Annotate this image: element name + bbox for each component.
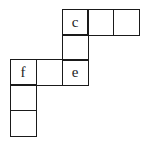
net-cell — [36, 59, 63, 86]
net-cell — [10, 84, 37, 111]
net-cell — [113, 9, 140, 36]
net-cell — [10, 110, 37, 137]
cell-label: f — [21, 65, 26, 80]
net-cell-c: c — [62, 9, 89, 36]
cell-label: e — [72, 65, 79, 80]
net-cell-e: e — [62, 59, 89, 86]
net-cell-f: f — [10, 59, 37, 86]
net-cell — [62, 34, 89, 61]
cube-net-diagram: c f e — [0, 0, 147, 146]
cell-label: c — [72, 15, 79, 30]
net-cell — [87, 9, 114, 36]
